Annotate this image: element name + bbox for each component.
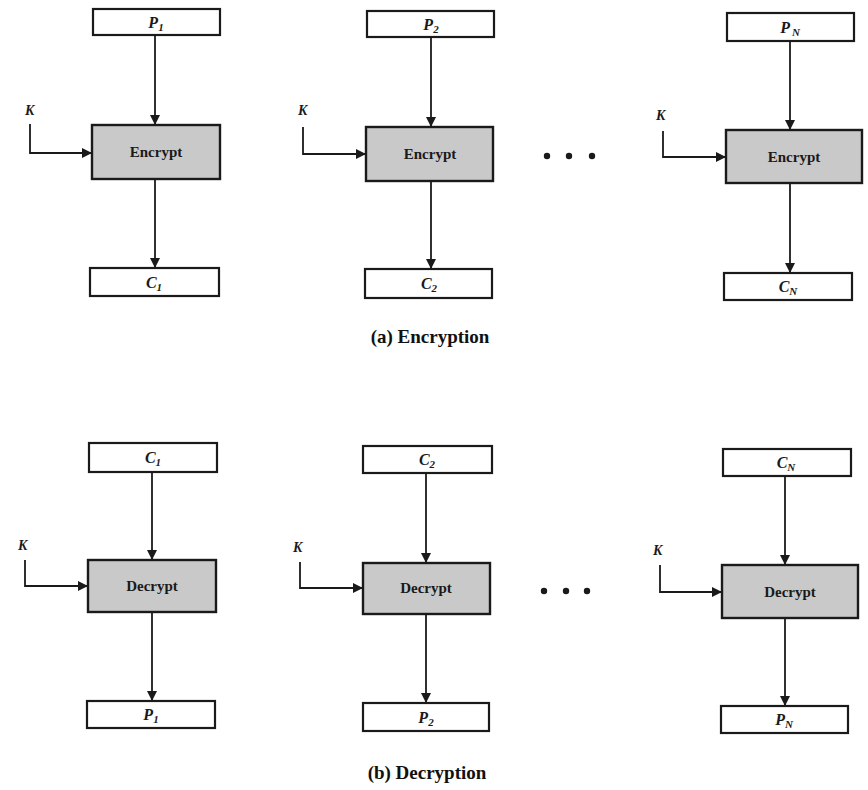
encrypt-label-1: Encrypt — [130, 144, 183, 160]
decryption-block-2: C2 Decrypt K P2 — [292, 446, 492, 731]
decrypt-label-1: Decrypt — [126, 578, 178, 594]
key-arrow-icon — [663, 131, 725, 157]
encryption-block-2: P2 Encrypt K C2 — [297, 11, 494, 298]
decryption-block-n: CN Decrypt K PN — [652, 449, 858, 733]
encryption-block-n: PN Encrypt K CN — [655, 13, 862, 300]
key-arrow-icon — [303, 127, 365, 154]
key-label-2: K — [297, 103, 309, 118]
key-label-2: K — [292, 540, 304, 555]
decryption-caption: (b) Decryption — [368, 762, 487, 784]
key-arrow-icon — [30, 124, 91, 153]
key-label-n: K — [652, 543, 664, 558]
key-arrow-icon — [25, 560, 87, 586]
decrypt-label-2: Decrypt — [400, 580, 452, 596]
encryption-caption: (a) Encryption — [371, 326, 490, 348]
key-label-n: K — [655, 108, 667, 123]
plaintext-box-n — [727, 13, 854, 41]
decrypt-label-n: Decrypt — [764, 584, 816, 600]
key-label-1: K — [24, 103, 36, 118]
encryption-panel: P1 Encrypt K C1 P2 Encrypt K C2 — [24, 9, 862, 348]
decryption-block-1: C1 Decrypt K P1 — [17, 443, 217, 728]
ellipsis-icon — [544, 153, 595, 159]
encrypt-label-n: Encrypt — [768, 149, 821, 165]
key-arrow-icon — [660, 565, 721, 592]
key-arrow-icon — [300, 562, 362, 588]
encrypt-label-2: Encrypt — [404, 146, 457, 162]
ecb-mode-diagram: P1 Encrypt K C1 P2 Encrypt K C2 — [0, 0, 868, 790]
encryption-block-1: P1 Encrypt K C1 — [24, 9, 220, 296]
ellipsis-icon — [541, 588, 590, 594]
key-label-1: K — [17, 538, 29, 553]
decryption-panel: C1 Decrypt K P1 C2 Decrypt K P2 — [17, 443, 858, 784]
